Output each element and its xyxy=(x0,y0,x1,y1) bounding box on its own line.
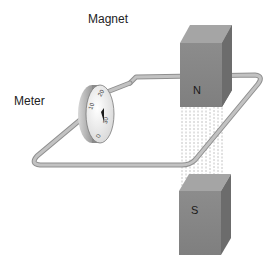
magnet-label: Magnet xyxy=(88,12,129,26)
induction-diagram: Magnet Meter N N 10 20 30 xyxy=(0,0,277,270)
north-magnet-front xyxy=(180,43,222,107)
north-pole-label-front: N xyxy=(193,84,201,96)
meter: 10 20 30 0 xyxy=(78,85,114,143)
south-pole-label: S xyxy=(191,204,198,216)
meter-label: Meter xyxy=(14,94,45,108)
south-magnet: S xyxy=(179,174,231,255)
